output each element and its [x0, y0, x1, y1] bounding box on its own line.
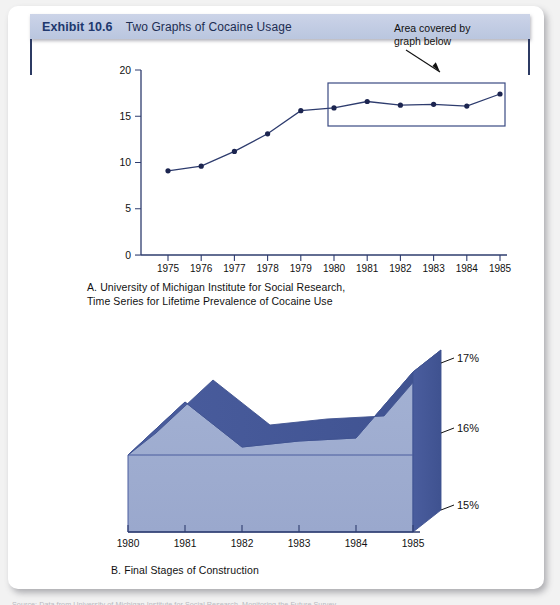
graph-a-point-1984 — [464, 104, 469, 109]
annotation-label: Area covered by graph below — [394, 22, 514, 48]
graph-a-point-1976 — [199, 164, 204, 169]
graph-b-tick-17 — [441, 358, 454, 363]
graph-a-point-1975 — [165, 168, 170, 173]
caption-b: B. Final Stages of Construction — [111, 563, 471, 577]
graph-a-line-chart: Percentage Ever Used Cocaine 0 5 10 15 2… — [8, 42, 544, 277]
graph-b-ylabel-17: 17% — [457, 352, 479, 364]
graph-a-x-ticks — [168, 255, 500, 261]
graph-b-area-chart: 15% 16% 17% 1980 1981 1982 1983 1984 19 — [8, 306, 544, 556]
graph-b-y-ticks — [441, 358, 454, 510]
graph-a-point-1985 — [497, 91, 502, 96]
graph-a-ytick-10: 10 — [119, 157, 131, 168]
graph-a-x-tick-labels: 1975 1976 1977 1978 1979 1980 1981 1982 … — [157, 263, 512, 274]
graph-a-xtick-1979: 1979 — [290, 263, 313, 274]
graph-a-point-1979 — [298, 108, 303, 113]
annotation-arrow-head — [433, 62, 441, 72]
graph-b-xtick-1984: 1984 — [345, 538, 368, 549]
graph-a-point-1978 — [265, 131, 270, 136]
graph-b-svg: 15% 16% 17% 1980 1981 1982 1983 1984 19 — [8, 306, 544, 556]
graph-a-xtick-1984: 1984 — [456, 263, 479, 274]
graph-b-xtick-1980: 1980 — [117, 538, 140, 549]
graph-b-ylabel-15: 15% — [457, 499, 479, 511]
graph-a-xtick-1985: 1985 — [489, 263, 512, 274]
graph-b-tick-16 — [441, 428, 454, 433]
graph-b-x-tick-labels: 1980 1981 1982 1983 1984 1985 — [117, 538, 425, 549]
graph-a-ytick-0: 0 — [125, 250, 131, 261]
annotation-line-1: Area covered by — [394, 22, 514, 35]
graph-a-svg: Percentage Ever Used Cocaine 0 5 10 15 2… — [8, 42, 544, 277]
graph-b-ylabel-16: 16% — [457, 422, 479, 434]
graph-a-xtick-1978: 1978 — [256, 263, 279, 274]
graph-a-point-1977 — [232, 149, 237, 154]
graph-b-xtick-1981: 1981 — [174, 538, 197, 549]
graph-a-xtick-1982: 1982 — [389, 263, 412, 274]
graph-a-y-tick-labels: 0 5 10 15 20 — [119, 65, 131, 261]
graph-a-point-1983 — [431, 102, 436, 107]
graph-a-point-1980 — [331, 105, 336, 110]
graph-a-point-1981 — [365, 99, 370, 104]
graph-b-xtick-1985: 1985 — [402, 538, 425, 549]
graph-b-y-tick-labels: 15% 16% 17% — [457, 352, 479, 511]
graph-a-xtick-1980: 1980 — [323, 263, 346, 274]
exhibit-card: Exhibit 10.6 Two Graphs of Cocaine Usage… — [8, 6, 544, 589]
graph-a-xtick-1983: 1983 — [422, 263, 445, 274]
graph-a-ytick-15: 15 — [119, 111, 131, 122]
caption-a: A. University of Michigan Institute for … — [87, 280, 507, 308]
graph-a-xtick-1981: 1981 — [356, 263, 379, 274]
exhibit-number: Exhibit 10.6 — [42, 20, 113, 34]
graph-b-xtick-1982: 1982 — [231, 538, 254, 549]
graph-b-front-face — [128, 372, 413, 532]
annotation-line-2: graph below — [394, 35, 514, 48]
exhibit-title: Two Graphs of Cocaine Usage — [126, 20, 292, 34]
graph-a-xtick-1977: 1977 — [223, 263, 246, 274]
graph-a-y-ticks — [135, 70, 141, 255]
graph-b-right-face — [413, 350, 441, 532]
graph-a-ytick-20: 20 — [119, 65, 131, 76]
graph-a-xtick-1976: 1976 — [190, 263, 213, 274]
graph-a-xtick-1975: 1975 — [157, 263, 180, 274]
annotation-arrow-shaft — [406, 50, 440, 72]
graph-a-point-1982 — [398, 103, 403, 108]
graph-b-tick-15 — [441, 505, 454, 510]
footnote-clipped: Source: Data from University of Michigan… — [12, 600, 552, 605]
graph-b-xtick-1983: 1983 — [288, 538, 311, 549]
graph-a-markers — [165, 91, 502, 173]
graph-a-ytick-5: 5 — [125, 203, 131, 214]
